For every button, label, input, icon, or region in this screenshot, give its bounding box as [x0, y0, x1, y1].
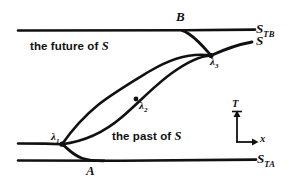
- curve-lambda3-to-B: [182, 30, 211, 55]
- region-label-future-text: the future of: [30, 40, 102, 52]
- point-label-a: A: [86, 164, 95, 177]
- right-outgoing-line-s: [211, 42, 252, 56]
- node-lambda2: [134, 97, 139, 102]
- lambda3-sub: 3: [215, 62, 219, 70]
- intersection-label-lambda1: λ1: [51, 131, 59, 145]
- region-label-past: the past of S: [112, 130, 182, 143]
- axis-label-space: x: [260, 134, 265, 145]
- region-label-past-symbol: S: [175, 129, 182, 143]
- region-label-future-symbol: S: [102, 39, 109, 53]
- node-lambda1: [59, 142, 64, 147]
- surface-label-stb-sub: TB: [263, 29, 274, 39]
- curve-lambda1-to-A: [62, 144, 104, 161]
- region-label-past-text: the past of: [112, 130, 175, 142]
- intersection-label-lambda2: λ2: [139, 100, 147, 114]
- axis-indicator: [232, 111, 259, 146]
- region-label-future: the future of S: [30, 40, 109, 53]
- spacetime-diagram: B A STB S STA the future of S the past o…: [0, 0, 289, 185]
- surface-label-sta-sub: TA: [264, 159, 275, 169]
- intersection-label-lambda3: λ3: [210, 56, 218, 70]
- diagram-canvas: [0, 0, 289, 185]
- lambda2-sub: 2: [144, 106, 148, 114]
- surface-label-sta: STA: [257, 152, 275, 168]
- lambda1-sub: 1: [56, 137, 60, 145]
- axis-horizontal-arrowhead: [252, 139, 259, 146]
- axis-label-time: T: [232, 99, 238, 110]
- surface-line-stb: [18, 30, 255, 31]
- surface-label-s: S: [256, 34, 263, 47]
- point-label-b: B: [176, 10, 185, 23]
- surface-line-sta: [18, 160, 256, 161]
